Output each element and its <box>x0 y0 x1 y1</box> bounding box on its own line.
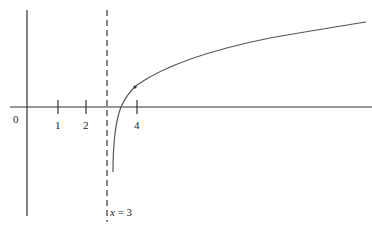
function-curve <box>113 22 366 172</box>
graph <box>0 0 372 227</box>
tick-label-2: 2 <box>83 120 89 131</box>
marked-point <box>133 85 136 88</box>
origin-label: 0 <box>13 114 19 125</box>
asymptote-value: = 3 <box>115 206 132 218</box>
asymptote-label: x = 3 <box>110 207 132 218</box>
tick-label-1: 1 <box>55 120 61 131</box>
tick-label-4: 4 <box>134 120 140 131</box>
